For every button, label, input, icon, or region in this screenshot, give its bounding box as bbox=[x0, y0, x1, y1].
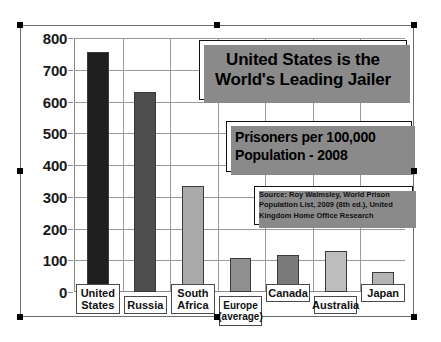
y-axis: 8007006005004003002001000 bbox=[25, 38, 73, 292]
x-category-label-line-1: United bbox=[81, 287, 115, 299]
title-callout: United States is the World's Leading Jai… bbox=[199, 40, 407, 100]
source-line-1: Source: Roy Walmsley, World Prison bbox=[259, 190, 408, 200]
selection-handle-middle-left[interactable] bbox=[17, 168, 23, 174]
y-axis-tick-mark bbox=[68, 197, 73, 198]
y-axis-tick-mark bbox=[68, 292, 73, 293]
x-axis-category-labels: UnitedStatesRussiaSouthAfricaEurope(aver… bbox=[74, 284, 405, 324]
x-category-label: SouthAfrica bbox=[171, 284, 215, 314]
y-axis-tick-label: 800 bbox=[43, 30, 67, 47]
y-axis-tick-mark bbox=[68, 70, 73, 71]
x-category-label: UnitedStates bbox=[76, 284, 120, 314]
source-line-3: Kingdom Home Office Research bbox=[259, 211, 408, 221]
y-axis-tick-mark bbox=[68, 165, 73, 166]
bar-chart-object[interactable]: 8007006005004003002001000 UnitedStatesRu… bbox=[20, 25, 414, 317]
x-category-label-line-1: Russia bbox=[127, 299, 163, 311]
y-axis-tick-label: 0 bbox=[59, 284, 67, 301]
x-category-label-line-1: Canada bbox=[268, 287, 308, 299]
selection-handle-top-right[interactable] bbox=[411, 22, 417, 28]
subtitle-callout: Prisoners per 100,000 Population - 2008 bbox=[226, 121, 412, 172]
x-category-label: Russia bbox=[124, 296, 168, 314]
x-category-label: Canada bbox=[266, 284, 310, 302]
x-category-label-line-1: Europe bbox=[223, 300, 257, 311]
selection-handle-bottom-center[interactable] bbox=[214, 314, 220, 320]
y-axis-tick-mark bbox=[68, 38, 73, 39]
selection-handle-top-left[interactable] bbox=[17, 22, 23, 28]
selection-handle-bottom-right[interactable] bbox=[411, 314, 417, 320]
y-axis-tick-label: 700 bbox=[43, 61, 67, 78]
bar-south-africa[interactable] bbox=[182, 186, 204, 292]
y-axis-tick-label: 300 bbox=[43, 188, 67, 205]
selection-handle-top-center[interactable] bbox=[214, 22, 220, 28]
x-category-label-line-2: States bbox=[81, 299, 114, 311]
x-category-label-line-2: Africa bbox=[177, 299, 208, 311]
chart-title-line-2: World's Leading Jailer bbox=[215, 70, 391, 90]
y-axis-tick-mark bbox=[68, 229, 73, 230]
selection-handle-middle-right[interactable] bbox=[411, 168, 417, 174]
x-category-label-line-1: Australia bbox=[312, 299, 359, 311]
x-category-label-line-1: South bbox=[177, 287, 208, 299]
y-axis-tick-label: 600 bbox=[43, 93, 67, 110]
y-axis-tick-label: 100 bbox=[43, 252, 67, 269]
bar-russia[interactable] bbox=[134, 92, 156, 292]
y-axis-tick-label: 500 bbox=[43, 125, 67, 142]
source-line-2: Population List, 2009 (8th ed.), United bbox=[259, 200, 408, 210]
x-category-label: Australia bbox=[314, 296, 358, 314]
y-axis-tick-mark bbox=[68, 102, 73, 103]
x-category-label-line-2: (average) bbox=[218, 311, 262, 322]
chart-subtitle-line-2: Population - 2008 bbox=[235, 147, 403, 164]
x-category-label: Japan bbox=[361, 284, 405, 302]
y-axis-tick-label: 400 bbox=[43, 157, 67, 174]
y-axis-tick-mark bbox=[68, 133, 73, 134]
x-category-label: Europe(average) bbox=[219, 296, 263, 326]
y-axis-tick-mark bbox=[68, 260, 73, 261]
source-callout: Source: Roy Walmsley, World Prison Popul… bbox=[254, 186, 413, 225]
bar-united-states[interactable] bbox=[87, 52, 109, 292]
chart-subtitle-line-1: Prisoners per 100,000 bbox=[235, 129, 403, 146]
selection-handle-bottom-left[interactable] bbox=[17, 314, 23, 320]
y-axis-tick-label: 200 bbox=[43, 220, 67, 237]
chart-title-line-1: United States is the bbox=[226, 50, 380, 70]
x-category-label-line-1: Japan bbox=[367, 287, 399, 299]
